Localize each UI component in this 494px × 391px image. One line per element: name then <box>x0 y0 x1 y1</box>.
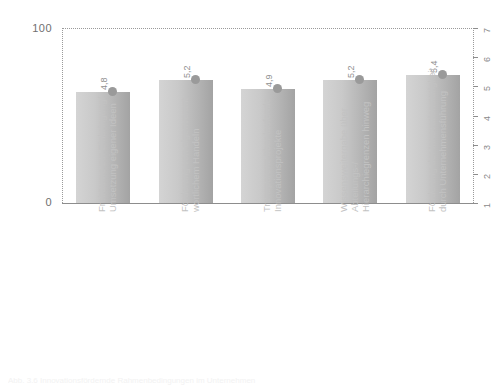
bar-value-label: 4,9 <box>264 74 274 87</box>
category-label-line: Freiräume zur Einbringung/ <box>96 97 107 212</box>
y-axis-min-label: 0 <box>14 196 52 208</box>
category-label-line: Abteilungs-/ <box>349 102 360 212</box>
bar-marker-dot <box>355 75 364 84</box>
y-axis-left <box>62 28 63 203</box>
right-axis-tick-mark <box>473 203 478 204</box>
figure-caption: Abb. 3.6 Innovationsfördernde Rahmenbedi… <box>8 376 478 386</box>
category-label-line: Umsetzung eigener Ideen <box>107 97 118 212</box>
bar-marker-dot <box>273 84 282 93</box>
right-axis-tick-mark <box>473 28 478 29</box>
right-axis-tick-mark <box>473 145 478 146</box>
right-axis-tick-label: 4 <box>482 116 492 121</box>
chart-figure: 100 0 4,85,24,95,25,4 7654321 Freiräume … <box>0 0 494 391</box>
category-label: Transparenz über laufendeInnovationsproj… <box>261 98 283 212</box>
right-axis-tick-label: 1 <box>482 203 492 208</box>
right-axis-tick-label: 7 <box>482 28 492 33</box>
category-label: Wissensweitergabe überAbteilungs-/Hierar… <box>338 102 371 212</box>
right-axis-tick-mark <box>473 116 478 117</box>
category-label: Förderung der Innovationstätigkeitdurch … <box>426 68 448 212</box>
category-label-line: Innovationsprojekte <box>272 98 283 212</box>
bar-value-label: 5,2 <box>182 65 192 78</box>
y-axis-max-label: 100 <box>14 22 52 34</box>
category-label: Förderung von eigenverant-wortlichem Han… <box>179 95 201 212</box>
category-label-line: wortlichem Handeln <box>190 95 201 212</box>
bar-marker-dot <box>191 75 200 84</box>
right-axis-tick-label: 6 <box>482 57 492 62</box>
right-axis-tick-label: 2 <box>482 174 492 179</box>
category-label-line: Förderung von eigenverant- <box>179 95 190 212</box>
right-axis-tick-label: 3 <box>482 145 492 150</box>
right-axis-tick-label: 5 <box>482 86 492 91</box>
right-axis-tick-mark <box>473 174 478 175</box>
top-gridline <box>62 28 474 29</box>
category-label-line: Förderung der Innovationstätigkeit <box>426 68 437 212</box>
category-label: Freiräume zur Einbringung/Umsetzung eige… <box>96 97 118 212</box>
bar-value-label: 5,2 <box>346 65 356 78</box>
bar-value-label: 4,8 <box>99 77 109 90</box>
category-label-line: durch Unternehmensführung <box>437 68 448 212</box>
category-label-line: Wissensweitergabe über <box>338 102 349 212</box>
right-axis-tick-mark <box>473 57 478 58</box>
category-label-line: Transparenz über laufende <box>261 98 272 212</box>
category-label-line: Hierarchiegrenzen hinweg <box>360 102 371 212</box>
bar-marker-dot <box>108 87 117 96</box>
right-axis-tick-mark <box>473 86 478 87</box>
